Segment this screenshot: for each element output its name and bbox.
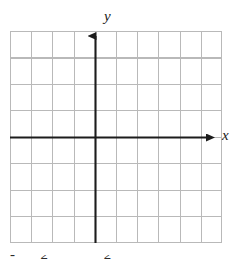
- y-axis-label: y: [104, 9, 111, 24]
- coordinate-plane-figure: y x -2 2: [0, 0, 231, 266]
- clipped-footer-text: -2 2: [0, 255, 231, 266]
- clipped-footer-text-value: -2 2: [10, 255, 138, 263]
- axes-layer: [0, 0, 231, 266]
- x-axis-label: x: [222, 128, 229, 143]
